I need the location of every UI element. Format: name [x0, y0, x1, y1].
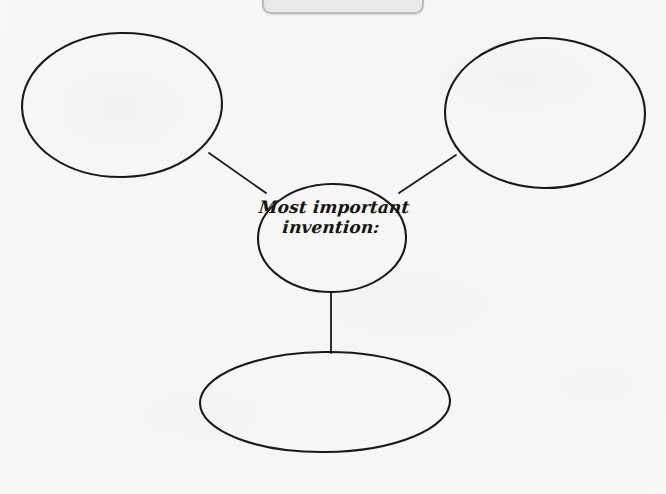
- concept-map-diagram: [0, 0, 666, 494]
- center-prompt-label: Most important invention:: [256, 198, 407, 237]
- center-prompt-line-1: Most important: [258, 197, 410, 217]
- bubble-top-right[interactable]: [444, 36, 647, 189]
- worksheet-page: Most important invention:: [0, 0, 666, 494]
- connector-center-to-top-left: [209, 153, 266, 193]
- bubble-bottom[interactable]: [199, 351, 450, 454]
- bubble-top-left[interactable]: [20, 30, 224, 179]
- connector-center-to-top-right: [399, 155, 456, 193]
- center-prompt-line-2: invention:: [256, 218, 406, 238]
